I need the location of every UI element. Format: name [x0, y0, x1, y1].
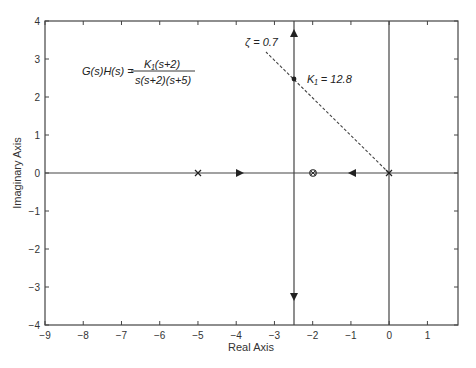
- y-tick-label: 0: [34, 168, 40, 179]
- arrow-down-icon: [290, 293, 298, 301]
- x-tick-label: −9: [39, 330, 51, 341]
- tf-denominator: s(s+2)(s+5): [135, 74, 192, 86]
- y-tick-label: −2: [29, 244, 41, 255]
- y-tick-label: 3: [34, 54, 40, 65]
- x-tick-label: −6: [154, 330, 166, 341]
- y-tick-label: −3: [29, 282, 41, 293]
- y-tick-label: 4: [34, 16, 40, 27]
- zeta-label: ζ = 0.7: [245, 36, 279, 49]
- x-tick-label: 0: [386, 330, 392, 341]
- damping-ratio-line: [266, 52, 389, 173]
- x-tick-label: −5: [192, 330, 204, 341]
- operating-point-marker: [292, 77, 297, 82]
- x-tick-label: 1: [425, 330, 431, 341]
- x-tick-label: −2: [307, 330, 319, 341]
- tf-numerator: K₁(s+2): [144, 58, 181, 70]
- gain-label: K₁ = 12.8: [307, 73, 353, 85]
- root-locus-plot: −9−8−7−6−5−4−3−2−101 −4−3−2−101234 G(s)H…: [0, 0, 476, 368]
- x-axis-label: Real Axis: [228, 341, 274, 353]
- tf-lhs: G(s)H(s) =: [82, 65, 134, 77]
- x-tick-label: −8: [78, 330, 90, 341]
- y-axis-label: Imaginary Axis: [11, 137, 23, 209]
- arrow-right-icon: [236, 169, 244, 177]
- x-tick-label: −4: [231, 330, 243, 341]
- y-tick-label: 2: [34, 92, 40, 103]
- x-tick-label: −7: [116, 330, 128, 341]
- x-tick-label: −1: [345, 330, 357, 341]
- arrow-up-icon: [290, 29, 298, 37]
- y-tick-label: −4: [29, 320, 41, 331]
- y-tick-label: −1: [29, 206, 41, 217]
- x-tick-label: −3: [269, 330, 281, 341]
- arrow-left-icon: [348, 169, 356, 177]
- y-tick-label: 1: [34, 130, 40, 141]
